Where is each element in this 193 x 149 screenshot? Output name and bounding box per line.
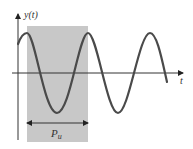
period-label-sub: u [58, 132, 62, 141]
period-shade-region [27, 26, 88, 142]
y-axis-label: y(t) [23, 9, 39, 21]
oscillation-diagram: y(t) t Pu [0, 0, 193, 149]
x-axis-label: t [180, 75, 183, 86]
